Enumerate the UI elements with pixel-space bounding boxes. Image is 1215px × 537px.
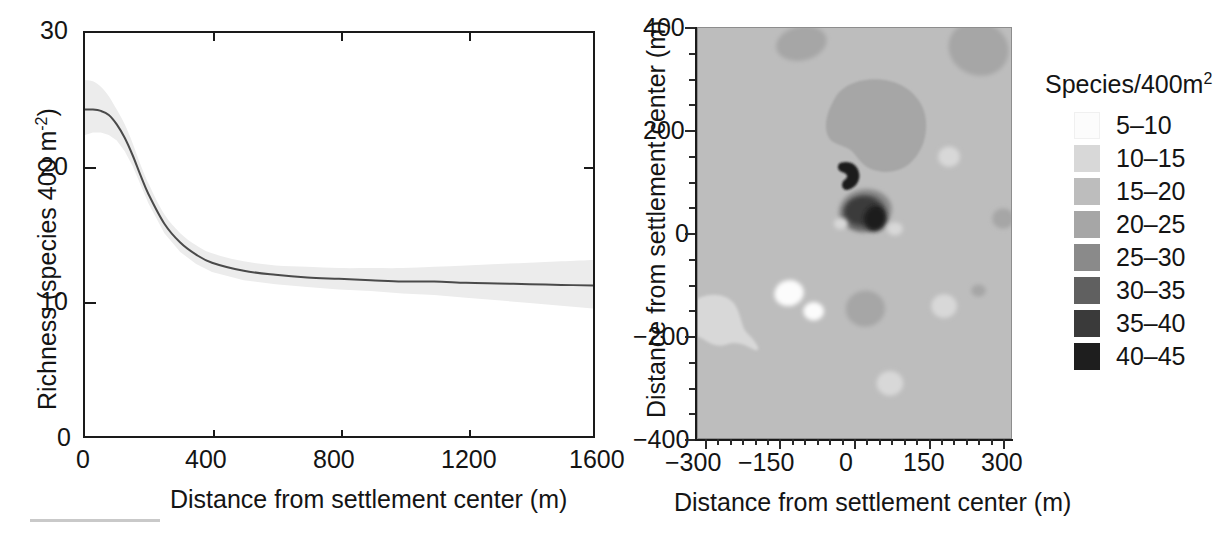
legend-row[interactable]: 40–45 [1045,340,1215,373]
legend-swatch [1074,211,1100,238]
map-x-major-tick [854,439,856,449]
legend-label: 35–40 [1116,311,1186,336]
map-x-minor-tick [916,439,918,445]
map-y-minor-tick [689,104,695,106]
left-y-tick-0: 0 [57,425,71,450]
map-y-minor-tick [689,207,695,209]
map-x-minor-tick [953,439,955,445]
map-y-minor-tick [689,259,695,261]
legend-title: Species/400m2 [1045,70,1215,99]
left-x-tick-800: 800 [313,447,355,472]
legend-label: 25–30 [1116,245,1186,270]
legend-row[interactable]: 10–15 [1045,142,1215,175]
legend-title-main: Species/400m [1045,70,1203,98]
map-y-minor-tick [689,310,695,312]
map-x-minor-tick [817,439,819,445]
map-y-minor-tick [689,362,695,364]
left-plot-area [83,31,595,438]
map-x-minor-tick [941,439,943,445]
map-x-minor-tick [842,439,844,445]
map-y-major-tick [685,130,695,132]
legend-swatch [1074,277,1100,304]
legend-label: 20–25 [1116,212,1186,237]
legend-swatch [1074,178,1100,205]
map-x-minor-tick [755,439,757,445]
legend-row[interactable]: 5–10 [1045,109,1215,142]
legend-row[interactable]: 20–25 [1045,208,1215,241]
left-x-axis-title: Distance from settlement center (m) [170,487,567,512]
map-y-major-tick [685,439,695,441]
legend-row[interactable]: 35–40 [1045,307,1215,340]
map-x-minor-tick [978,439,980,445]
map-y-major-tick [685,336,695,338]
richness-map-panel: Distance from settlement center (m) 400 … [620,0,1207,537]
left-y-axis-title-tail: ) [33,108,61,116]
legend-row[interactable]: 15–20 [1045,175,1215,208]
map-y-minor-tick [689,285,695,287]
map-y-minor-tick [689,79,695,81]
legend-label: 30–35 [1116,278,1186,303]
map-x-minor-tick [966,439,968,445]
legend-swatch [1074,112,1100,139]
left-x-tick-400: 400 [185,447,227,472]
map-y-major-tick [685,233,695,235]
map-y-major-tick [685,27,695,29]
legend-label: 15–20 [1116,179,1186,204]
legend-label: 40–45 [1116,344,1186,369]
map-x-minor-tick [829,439,831,445]
map-x-minor-tick [804,439,806,445]
map-x-minor-tick [866,439,868,445]
map-x-minor-tick [879,439,881,445]
map-x-minor-tick [767,439,769,445]
legend-row[interactable]: 25–30 [1045,241,1215,274]
map-x-minor-tick [742,439,744,445]
map-x-major-tick [779,439,781,449]
richness-curve-plot [85,33,593,436]
map-x-major-tick [705,439,707,449]
fitted-line [85,109,593,285]
left-x-tick-1200: 1200 [441,447,497,472]
left-x-tick-1600: 1600 [569,447,625,472]
map-legend: Species/400m2 5–1010–1515–2020–2525–3030… [1045,70,1215,373]
left-y-axis-title-exponent: -2 [33,116,50,130]
right-x-axis-title: Distance from settlement center (m) [674,490,1071,515]
map-y-minor-tick [689,182,695,184]
map-x-minor-tick [891,439,893,445]
map-x-minor-tick [730,439,732,445]
map-y-minor-tick [689,388,695,390]
map-x-major-tick [1003,439,1005,449]
legend-items: 5–1010–1515–2020–2525–3030–3535–4040–45 [1045,109,1215,373]
legend-label: 5–10 [1116,113,1172,138]
scan-edge-artifact [30,519,160,522]
map-x-minor-tick [717,439,719,445]
legend-swatch [1074,145,1100,172]
map-x-minor-tick [904,439,906,445]
map-y-minor-tick [689,413,695,415]
legend-swatch [1074,310,1100,337]
map-y-minor-tick [689,156,695,158]
map-y-minor-tick [689,53,695,55]
left-y-tick-20: 20 [40,154,68,179]
left-y-tick-10: 10 [40,289,68,314]
left-x-tick-0: 0 [76,447,90,472]
legend-title-exponent: 2 [1203,70,1212,87]
legend-swatch [1074,244,1100,271]
left-y-tick-30: 30 [40,18,68,43]
confidence-band [85,80,593,308]
map-x-minor-tick [991,439,993,445]
map-x-minor-tick [792,439,794,445]
legend-swatch [1074,343,1100,370]
legend-row[interactable]: 30–35 [1045,274,1215,307]
map-x-major-tick [929,439,931,449]
legend-label: 10–15 [1116,146,1186,171]
richness-distance-panel: Richness (species 400 m-2) 0 10 20 30 0 … [0,0,620,537]
